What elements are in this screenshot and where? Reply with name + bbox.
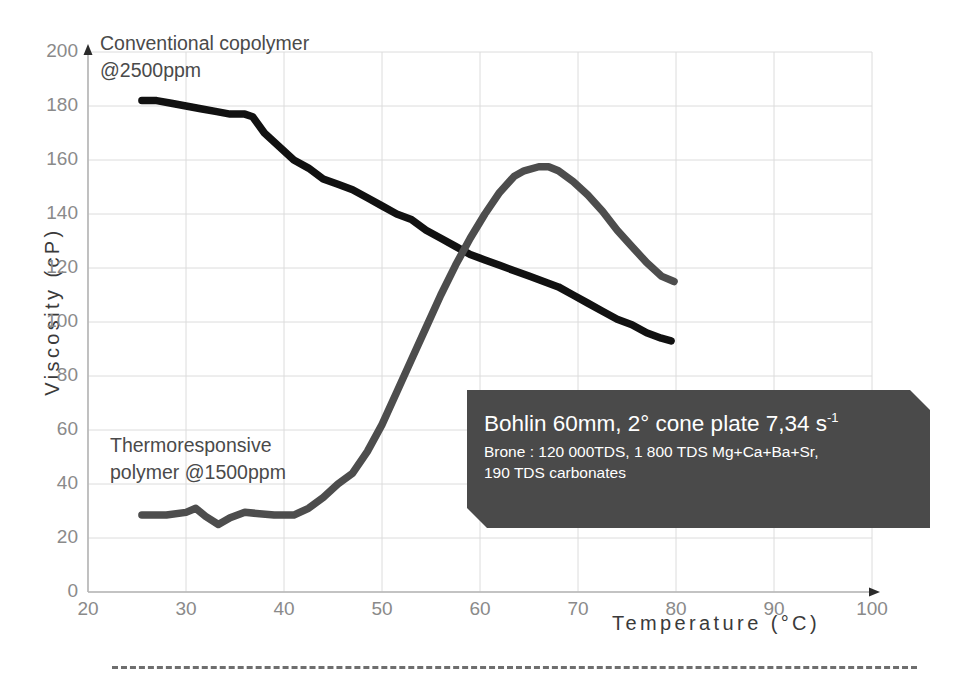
y-tick-label: 120	[20, 256, 78, 278]
y-tick-label: 20	[20, 526, 78, 548]
x-tick-label: 100	[842, 598, 902, 620]
chart-canvas	[0, 0, 954, 698]
callout-title: Bohlin 60mm, 2° cone plate 7,34 s-1	[484, 404, 930, 437]
x-tick-label: 50	[352, 598, 412, 620]
x-tick-label: 20	[58, 598, 118, 620]
x-tick-label: 30	[156, 598, 216, 620]
series-line-conventional-copolymer	[142, 101, 671, 341]
y-tick-label: 200	[20, 40, 78, 62]
callout-subtitle: Brone : 120 000TDS, 1 800 TDS Mg+Ca+Ba+S…	[484, 441, 930, 483]
series-label-conventional-copolymer: Conventional copolymer @2500ppm	[100, 30, 309, 84]
y-tick-label: 60	[20, 418, 78, 440]
instrument-callout-box: Bohlin 60mm, 2° cone plate 7,34 s-1 Bron…	[467, 390, 930, 528]
x-tick-label: 40	[254, 598, 314, 620]
x-tick-label: 70	[548, 598, 608, 620]
chart-figure: Viscosity (cP) Temperature (°C) 02040608…	[0, 0, 954, 698]
y-tick-label: 180	[20, 94, 78, 116]
series-label-thermoresponsive-polymer: Thermoresponsive polymer @1500ppm	[110, 432, 286, 486]
y-tick-label: 40	[20, 472, 78, 494]
y-tick-label: 100	[20, 310, 78, 332]
x-tick-label: 80	[646, 598, 706, 620]
y-tick-label: 160	[20, 148, 78, 170]
y-tick-label: 80	[20, 364, 78, 386]
callout-title-superscript: -1	[827, 410, 839, 425]
x-tick-label: 90	[744, 598, 804, 620]
callout-title-main: Bohlin 60mm, 2° cone plate 7,34 s	[484, 411, 827, 436]
y-tick-label: 140	[20, 202, 78, 224]
x-tick-label: 60	[450, 598, 510, 620]
footer-dashed-divider	[112, 666, 917, 669]
